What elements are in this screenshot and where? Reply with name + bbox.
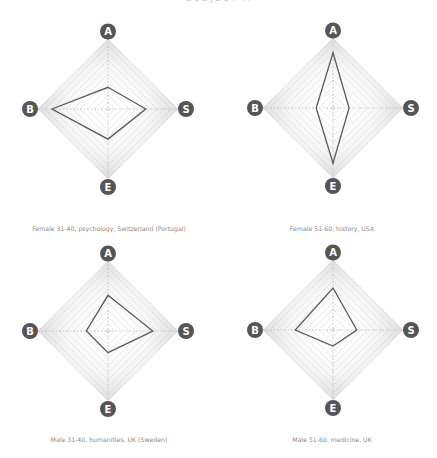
axis-badge-e: E [325,178,341,194]
axis-badge-e: E [325,400,341,416]
axis-label: E [330,403,337,414]
axis-label: B [26,104,34,115]
axis-badge-a: A [325,23,341,39]
axis-badge-s: S [403,322,419,338]
radar-chart-2: ASEB [247,23,419,195]
axis-label: B [251,103,259,114]
radar-chart-3: ASEB [22,246,194,418]
radar-chart-4: ASEB [247,245,419,417]
axis-label: E [105,404,112,415]
axis-badge-e: E [100,179,116,195]
chart-caption: Male 51-60, medicine, UK [292,436,371,443]
axis-badge-s: S [403,100,419,116]
axis-badge-b: B [247,100,263,116]
axis-label: A [329,247,337,258]
axis-badge-b: B [22,323,38,339]
axis-label: A [329,25,337,36]
axis-label: E [105,182,112,193]
axis-badge-b: B [247,322,263,338]
axis-badge-a: A [325,245,341,261]
chart-caption: Male 31-40, humanities, UK (Sweden) [51,436,168,443]
axis-label: S [182,104,189,115]
axis-label: A [104,26,112,37]
axis-label: S [182,326,189,337]
chart-caption: Female 51-60, history, USA [290,225,374,232]
axis-label: S [407,325,414,336]
axis-label: E [330,181,337,192]
axis-badge-a: A [100,246,116,262]
axis-badge-b: B [22,101,38,117]
axis-label: B [26,326,34,337]
radar-chart-1: ASEB [22,24,194,196]
axis-label: S [407,103,414,114]
axis-badge-s: S [178,323,194,339]
axis-badge-a: A [100,24,116,40]
axis-label: A [104,248,112,259]
axis-badge-e: E [100,401,116,417]
axis-label: B [251,325,259,336]
axis-badge-s: S [178,101,194,117]
chart-caption: Female 31-40, psychology, Switzerland (P… [32,225,186,232]
